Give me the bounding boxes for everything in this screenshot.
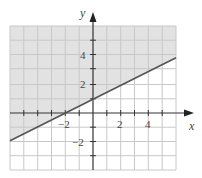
x-tick-label-neg2: −2 xyxy=(58,118,70,130)
x-tick-label-4: 4 xyxy=(145,118,151,130)
y-axis-label: y xyxy=(79,6,86,20)
y-tick-label-2: 2 xyxy=(80,78,86,90)
y-tick-label-4: 4 xyxy=(80,49,86,61)
y-tick-label-neg2: −2 xyxy=(72,136,84,148)
x-tick-label-2: 2 xyxy=(117,118,123,130)
x-axis xyxy=(10,110,194,117)
inequality-graph: y x 4 2 −2 −2 2 4 xyxy=(0,0,202,178)
x-axis-arrow-icon xyxy=(184,110,194,117)
y-axis-arrow-icon xyxy=(90,12,97,22)
x-axis-label: x xyxy=(188,119,195,133)
